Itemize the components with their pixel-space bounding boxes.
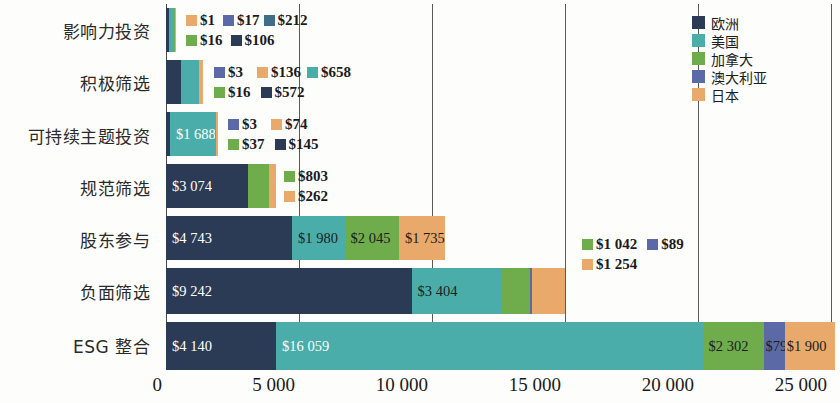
value-label-engagement-ca: $2 045 (345, 231, 391, 246)
callout-item-jp: $74 (271, 116, 308, 133)
segment-esg-ca[interactable]: $2 302 (703, 322, 764, 370)
segment-norms-ca[interactable] (248, 164, 269, 208)
callout-value-eu: $106 (245, 32, 275, 49)
segment-engagement-jp[interactable]: $1 735 (399, 216, 445, 260)
value-label-esg-ca: $2 302 (703, 339, 749, 354)
segment-norms-jp[interactable] (269, 164, 276, 208)
callout-item-us: $212 (264, 12, 308, 29)
stacked-bar-positive (166, 60, 203, 104)
swatch-us-icon (307, 67, 318, 78)
callout-value-au: $89 (661, 236, 684, 253)
legend-item-australia[interactable]: 澳大利亚 (692, 68, 767, 85)
callout-value-au: $3 (242, 116, 257, 133)
segment-positive-us[interactable] (181, 60, 199, 104)
callout-value-ca: $16 (200, 32, 223, 49)
bar-row-esg: $4 140 $16 059 $2 302 $794 $1 900 (166, 322, 832, 370)
callout-item-jp: $136 (257, 64, 301, 81)
value-label-engagement-eu: $4 743 (166, 231, 212, 246)
segment-esg-au[interactable]: $794 (764, 322, 785, 370)
callout-item-eu: $145 (275, 136, 319, 153)
value-label-negative-us: $3 404 (412, 284, 458, 299)
stacked-bar-negative: $9 242 $3 404 (166, 268, 565, 314)
callout-item-ca: $1 042 (582, 236, 637, 253)
callout-line-1: $1 042 $89 (582, 236, 684, 253)
callout-group-positive: $3 $136 $658 $16 (214, 60, 351, 104)
callout-line-2: $262 (284, 188, 328, 205)
segment-esg-us[interactable]: $16 059 (276, 322, 703, 370)
legend-item-us[interactable]: 美国 (692, 32, 767, 49)
callout-value-us: $212 (278, 12, 308, 29)
stacked-bar-norms: $3 074 (166, 164, 276, 208)
callout-line-2: $37 $145 (228, 136, 319, 153)
callout-group-negative: $1 042 $89 $1 254 (582, 232, 684, 276)
callout-item-jp: $1 254 (582, 256, 637, 273)
callout-value-ca: $37 (242, 136, 265, 153)
segment-negative-eu[interactable]: $9 242 (166, 268, 412, 314)
category-label-esg: ESG 整合 (73, 333, 150, 358)
callout-item-eu: $106 (231, 32, 275, 49)
stacked-bar-chart: 影响力投资 积极筛选 可持续主题投资 规范筛选 股东参与 负面筛选 ESG 整合 (0, 0, 840, 403)
segment-norms-eu[interactable]: $3 074 (166, 164, 248, 208)
callout-group-norms: $803 $262 (284, 164, 328, 208)
x-tick-5000: 5 000 (252, 374, 299, 396)
legend-swatch-canada-icon (692, 52, 705, 65)
category-label-engagement: 股东参与 (80, 227, 150, 252)
swatch-us-icon (264, 15, 275, 26)
callout-value-au: $17 (237, 12, 260, 29)
value-label-esg-eu: $4 140 (166, 339, 212, 354)
callout-item-au: $3 (214, 64, 243, 81)
callout-line-1: $3 $136 $658 (214, 64, 351, 81)
bar-row-norms: $3 074 $803 $262 (166, 164, 832, 208)
swatch-australia-icon (214, 67, 225, 78)
callout-value-eu: $145 (289, 136, 319, 153)
value-label-negative-eu: $9 242 (166, 284, 212, 299)
segment-positive-jp[interactable] (199, 60, 203, 104)
callout-value-jp: $74 (285, 116, 308, 133)
swatch-europe-icon (275, 139, 286, 150)
segment-positive-eu[interactable] (166, 60, 181, 104)
callout-item-us: $658 (307, 64, 351, 81)
callout-item-ca: $16 (214, 84, 251, 101)
swatch-canada-icon (214, 87, 225, 98)
bar-row-thematic: $1 688 $3 $74 (166, 112, 832, 156)
segment-thematic-jp[interactable] (216, 112, 218, 156)
category-label-impact: 影响力投资 (63, 18, 151, 43)
callout-group-impact: $1 $17 $212 $16 (186, 8, 308, 52)
segment-thematic-us[interactable]: $1 688 (170, 112, 215, 156)
legend-label-japan: 日本 (711, 85, 739, 105)
callout-item-jp: $1 (186, 12, 215, 29)
legend-swatch-europe-icon (692, 16, 705, 29)
value-label-engagement-us: $1 980 (292, 231, 338, 246)
segment-esg-eu[interactable]: $4 140 (166, 322, 276, 370)
swatch-europe-icon (231, 35, 242, 46)
segment-engagement-us[interactable]: $1 980 (292, 216, 345, 260)
legend-item-europe[interactable]: 欧洲 (692, 14, 767, 31)
callout-value-jp: $136 (271, 64, 301, 81)
callout-group-thematic: $3 $74 $37 $145 (228, 112, 319, 156)
legend-item-canada[interactable]: 加拿大 (692, 50, 767, 67)
segment-negative-ca[interactable] (502, 268, 530, 314)
bar-row-engagement: $4 743 $1 980 $2 045 $1 735 (166, 216, 832, 260)
x-tick-10000: 10 000 (376, 374, 432, 396)
callout-item-eu: $572 (261, 84, 305, 101)
stacked-bar-engagement: $4 743 $1 980 $2 045 $1 735 (166, 216, 445, 260)
swatch-canada-icon (284, 171, 295, 182)
segment-engagement-eu[interactable]: $4 743 (166, 216, 292, 260)
segment-negative-us[interactable]: $3 404 (412, 268, 502, 314)
bar-row-negative: $9 242 $3 404 $1 042 $89 (166, 268, 832, 314)
callout-value-jp: $262 (298, 188, 328, 205)
callout-value-jp: $1 (200, 12, 215, 29)
legend-item-japan[interactable]: 日本 (692, 86, 767, 103)
callout-line-2: $16 $572 (214, 84, 351, 101)
callout-value-au: $3 (228, 64, 243, 81)
callout-value-jp: $1 254 (596, 256, 637, 273)
segment-esg-jp[interactable]: $1 900 (785, 322, 836, 370)
callout-value-ca: $1 042 (596, 236, 637, 253)
callout-item-ca: $37 (228, 136, 265, 153)
x-axis: 0 5 000 10 000 15 000 20 000 25 000 (0, 370, 840, 403)
segment-negative-jp[interactable] (532, 268, 565, 314)
segment-engagement-ca[interactable]: $2 045 (345, 216, 399, 260)
callout-value-us: $658 (321, 64, 351, 81)
swatch-australia-icon (228, 119, 239, 130)
legend-swatch-us-icon (692, 34, 705, 47)
